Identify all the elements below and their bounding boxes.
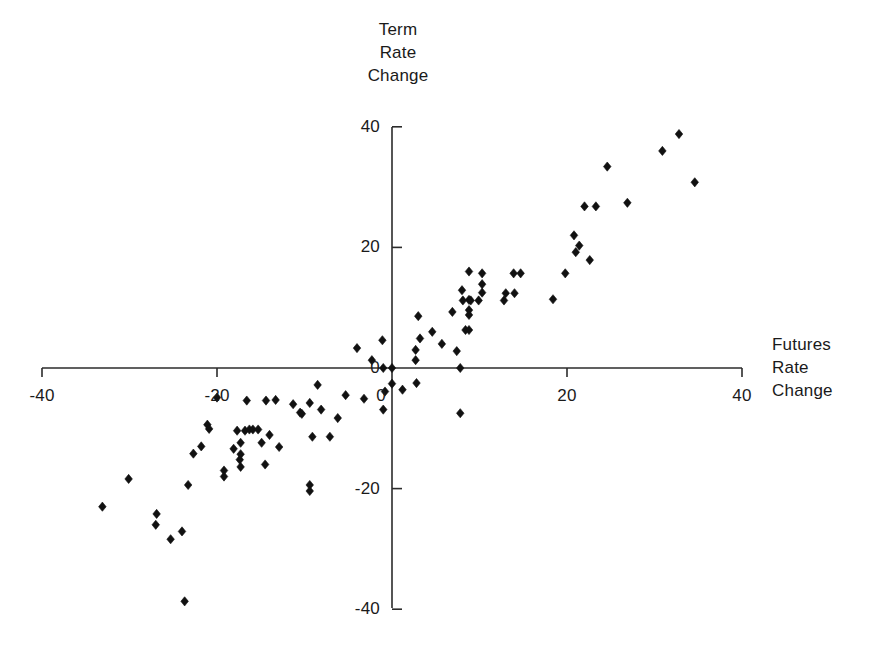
data-point [478,288,486,297]
data-point [197,442,205,451]
data-point [181,597,189,606]
data-point [326,432,334,441]
data-point [475,296,483,305]
data-point [314,380,322,389]
y-tick-label: 40 [324,117,380,136]
data-point [379,363,387,372]
data-point [675,129,683,138]
data-point [549,295,557,304]
data-point [517,269,525,278]
data-point [272,395,280,404]
data-point [449,307,457,316]
data-point [388,379,396,388]
data-point [237,438,245,447]
data-point [178,527,186,536]
data-point [254,425,262,434]
data-point [478,280,486,289]
y-tick-label: -40 [324,599,380,618]
data-point [334,413,342,422]
data-point [511,289,519,298]
x-tick-label: 20 [537,386,597,405]
x-tick-label: -20 [187,386,247,405]
data-point [592,202,600,211]
data-point [379,336,387,345]
data-point [342,391,350,400]
data-point [691,178,699,187]
data-point [478,269,486,278]
data-point [456,409,464,418]
y-tick-label: 0 [324,358,380,377]
scatter-chart: Term Rate Change Futures Rate Change -40… [0,0,895,645]
plot-area [0,0,895,645]
data-point [306,486,314,495]
data-point [275,442,283,451]
data-point [379,405,387,414]
y-tick-label: -20 [324,479,380,498]
data-point [258,438,266,447]
data-point [230,444,238,453]
x-tick-label: -40 [12,386,72,405]
data-point [458,286,466,295]
data-point [99,502,107,511]
data-point [167,535,175,544]
data-point [353,344,361,353]
data-point [317,405,325,414]
data-point [220,472,228,481]
data-point [266,430,274,439]
data-point [428,327,436,336]
data-point [659,146,667,155]
data-point [190,449,198,458]
data-point [153,509,161,518]
data-point [262,396,270,405]
data-point [413,378,421,387]
data-point [184,480,192,489]
data-point [502,289,510,298]
data-point [309,432,317,441]
data-point [289,400,297,409]
data-point [125,474,133,483]
x-tick-label: 40 [712,386,772,405]
data-point [261,460,269,469]
data-point [152,520,160,529]
x-tick-label: 0 [356,386,386,405]
data-point [399,385,407,394]
data-point [500,296,508,305]
data-point [581,202,589,211]
data-point [438,339,446,348]
data-point [465,267,473,276]
data-point [414,312,422,321]
y-tick-label: 20 [324,237,380,256]
data-point [453,347,461,356]
data-point [412,345,420,354]
data-point [561,269,569,278]
data-point [510,269,518,278]
data-point [456,363,464,372]
data-point [603,162,611,171]
data-point [586,255,594,264]
data-point [388,363,396,372]
data-point [416,334,424,343]
data-point [233,426,241,435]
data-point [412,356,420,365]
data-point [306,398,314,407]
data-point [624,198,632,207]
data-point [237,462,245,471]
data-point [570,231,578,240]
